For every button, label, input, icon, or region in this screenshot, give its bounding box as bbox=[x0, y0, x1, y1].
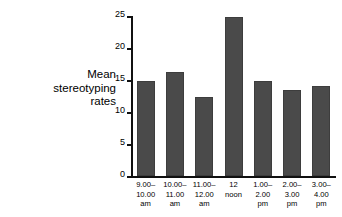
y-axis-tick-label: 0 bbox=[120, 170, 125, 179]
y-axis-tick-mark bbox=[127, 48, 131, 50]
x-axis-tick-label-line: 11.00– bbox=[190, 180, 219, 190]
x-axis-tick-label: 12noon bbox=[219, 180, 248, 209]
x-axis-tick-label: 2.00–3.00pm bbox=[277, 180, 306, 209]
y-axis-tick-label: 25 bbox=[115, 10, 125, 19]
x-axis-tick-label-line: 11.00 bbox=[160, 190, 189, 200]
x-axis-tick-label-line: am bbox=[131, 199, 160, 209]
x-axis-tick-label-line: 10.00– bbox=[160, 180, 189, 190]
y-axis-tick-mark bbox=[127, 16, 131, 18]
x-axis-tick-label-line: noon bbox=[219, 190, 248, 200]
y-axis-tick-mark bbox=[127, 80, 131, 82]
bar bbox=[166, 72, 184, 176]
y-axis-title-line-3: rates bbox=[8, 95, 116, 109]
x-axis-tick-label-line: 4.00 bbox=[307, 190, 336, 200]
x-axis-tick-label-line: 3.00 bbox=[277, 190, 306, 200]
x-axis-tick-label-line: 2.00 bbox=[248, 190, 277, 200]
x-axis-tick-label-line: pm bbox=[277, 199, 306, 209]
y-axis-tick-mark bbox=[127, 144, 131, 146]
y-axis-title-line-2: stereotyping bbox=[8, 82, 116, 96]
x-axis-tick-labels: 9.00–10.00am10.00–11.00am11.00–12.00am12… bbox=[131, 180, 336, 216]
y-axis-tick-mark bbox=[127, 112, 131, 114]
y-axis-line bbox=[131, 16, 133, 176]
x-axis-tick-label-line bbox=[219, 199, 248, 209]
bar bbox=[225, 17, 243, 176]
bar bbox=[312, 86, 330, 176]
y-axis-tick-label: 5 bbox=[120, 138, 125, 147]
x-axis-tick-label-line: 3.00– bbox=[307, 180, 336, 190]
x-axis-tick-label: 1.00–2.00pm bbox=[248, 180, 277, 209]
y-axis-tick-label: 15 bbox=[115, 74, 125, 83]
bar bbox=[254, 81, 272, 176]
bar bbox=[195, 97, 213, 176]
x-axis-tick-label: 9.00–10.00am bbox=[131, 180, 160, 209]
x-axis-tick-label-line: am bbox=[190, 199, 219, 209]
bar bbox=[283, 90, 301, 176]
x-axis-tick-label-line: 12.00 bbox=[190, 190, 219, 200]
y-axis-tick-label: 10 bbox=[115, 106, 125, 115]
bar bbox=[137, 81, 155, 176]
x-axis-tick-label: 10.00–11.00am bbox=[160, 180, 189, 209]
x-axis-tick-label-line: 9.00– bbox=[131, 180, 160, 190]
x-axis-tick-label-line: 2.00– bbox=[277, 180, 306, 190]
x-axis-tick-label-line: am bbox=[160, 199, 189, 209]
x-axis-tick-label: 3.00–4.00pm bbox=[307, 180, 336, 209]
y-axis-tick-mark bbox=[127, 176, 131, 178]
y-axis-title: Mean stereotyping rates bbox=[8, 68, 116, 109]
plot-area: 0510152025 bbox=[131, 16, 336, 176]
x-axis-tick-label-line: pm bbox=[248, 199, 277, 209]
y-axis-tick-label: 20 bbox=[115, 42, 125, 51]
y-axis-title-line-1: Mean bbox=[8, 68, 116, 82]
x-axis-tick-label-line: 12 bbox=[219, 180, 248, 190]
x-axis-tick-label-line: pm bbox=[307, 199, 336, 209]
bar-chart-figure: Mean stereotyping rates 0510152025 9.00–… bbox=[0, 0, 342, 217]
x-axis-tick-label-line: 10.00 bbox=[131, 190, 160, 200]
x-axis-tick-label-line: 1.00– bbox=[248, 180, 277, 190]
x-axis-line bbox=[131, 176, 336, 178]
x-axis-tick-label: 11.00–12.00am bbox=[190, 180, 219, 209]
